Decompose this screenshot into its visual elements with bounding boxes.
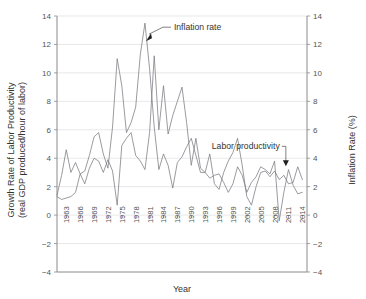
x-tick-label: 2002 xyxy=(243,206,252,223)
x-tick-label: 1972 xyxy=(104,206,113,223)
annotations: Inflation rateLabor productivity xyxy=(146,22,289,166)
series-line-inflation-rate xyxy=(57,23,302,221)
x-tick-label: 1969 xyxy=(90,206,99,223)
y-left-tick-label: 14 xyxy=(42,12,51,21)
x-axis-title: Year xyxy=(173,284,191,294)
y-right-tick-label: 6 xyxy=(313,126,318,135)
x-tick-label: 1990 xyxy=(187,206,196,223)
y-right-tick-label: 12 xyxy=(313,40,322,49)
y-left-tick-label: 6 xyxy=(47,126,52,135)
y-right-tick-label: 4 xyxy=(313,154,318,163)
y-left-tick-label: −4 xyxy=(42,268,52,277)
y-left-tick-label: 8 xyxy=(47,97,52,106)
y-right-tick-label: 0 xyxy=(313,211,318,220)
x-tick-label: 1987 xyxy=(173,206,182,223)
y-left-tick-label: 4 xyxy=(47,154,52,163)
x-tick-label: 1966 xyxy=(76,206,85,223)
x-tick-label: 1993 xyxy=(201,206,210,223)
y-right-tick-label: 10 xyxy=(313,69,322,78)
annotation-inflation-rate: Inflation rate xyxy=(174,22,222,32)
x-tick-label: 2014 xyxy=(298,206,307,223)
y-right-tick-label: 2 xyxy=(313,183,318,192)
y-left-tick-label: −2 xyxy=(42,240,52,249)
y-right-tick-label: −4 xyxy=(313,268,323,277)
y-axis-left: −4−202468101214 xyxy=(42,12,57,277)
y-axis-left-title-line1: Growth Rate of Labor Productivity xyxy=(6,82,16,218)
x-tick-label: 2005 xyxy=(257,206,266,223)
x-tick-label: 1981 xyxy=(146,206,155,223)
x-tick-label: 1978 xyxy=(132,206,141,223)
dual-axis-line-chart: −4−202468101214 −4−202468101214 19631966… xyxy=(0,0,366,299)
y-left-tick-label: 2 xyxy=(47,183,52,192)
x-tick-label: 1996 xyxy=(215,206,224,223)
y-left-tick-label: 12 xyxy=(42,40,51,49)
x-tick-label: 1999 xyxy=(229,206,238,223)
y-axis-right-title: Inflation Rate (%) xyxy=(347,115,357,185)
annotation-labor-productivity: Labor productivity xyxy=(212,141,281,151)
y-right-tick-label: 8 xyxy=(313,97,318,106)
x-axis: 1963196619691972197519781981198419871990… xyxy=(62,206,307,223)
chart-figure: −4−202468101214 −4−202468101214 19631966… xyxy=(0,0,366,299)
y-right-tick-label: −2 xyxy=(313,240,323,249)
x-tick-label: 1975 xyxy=(118,206,127,223)
y-axis-right: −4−202468101214 xyxy=(307,12,323,277)
x-tick-label: 1984 xyxy=(159,206,168,223)
series-line-labor-productivity xyxy=(57,56,302,205)
x-tick-label: 2011 xyxy=(284,207,293,223)
y-left-tick-label: 10 xyxy=(42,69,51,78)
x-tick-label: 1963 xyxy=(62,206,71,223)
y-axis-left-title-line2: (real GDP produced/hour of labor) xyxy=(17,82,27,218)
series-lines xyxy=(57,23,302,221)
y-right-tick-label: 14 xyxy=(313,12,322,21)
y-left-tick-label: 0 xyxy=(47,211,52,220)
